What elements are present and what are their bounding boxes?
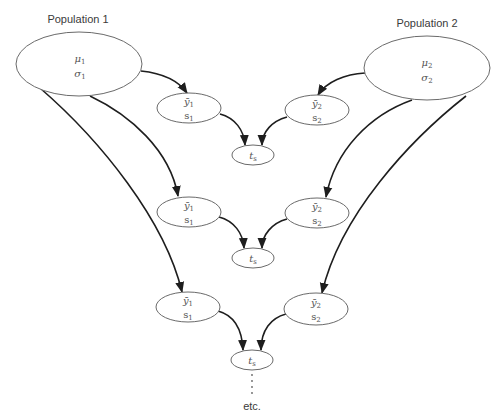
etc-label: etc. [243,400,261,412]
sampling-distribution-diagram: Population 1 Population 2 μ1 σ1 μ2 σ2 [0,0,501,419]
t-statistic-node-row3: ts [231,350,273,370]
population-1-label: Population 1 [47,13,108,25]
arrow-pop2-sample2-row1 [318,73,365,95]
arrow-pop1-sample1-row3 [40,88,182,292]
population-2-node: μ2 σ2 [364,36,490,100]
sample-2-node-row3: ȳ2 s2 [284,293,348,325]
continuation-dots [251,374,253,394]
t-statistic-node-row2: ts [232,248,274,268]
arrow-s2-ts-row2 [262,219,287,248]
population-1-node: μ1 σ1 [16,32,142,96]
t-statistic-node-row1: ts [232,145,274,165]
edges [40,71,466,350]
arrow-s1-ts-row3 [218,311,243,350]
sample-2-node-row1: ȳ2 s2 [285,95,349,125]
sample-1-node-row3: ȳ1 s1 [156,292,220,322]
sample-1-node-row1: ȳ1 s1 [157,93,221,123]
sample-1-node-row2: ȳ1 s1 [157,197,221,227]
arrow-s1-ts-row1 [220,114,245,145]
arrow-s2-ts-row1 [262,117,287,145]
arrow-s1-ts-row2 [219,217,244,248]
arrow-s2-ts-row3 [261,314,286,350]
arrow-pop1-sample1-row1 [141,71,187,93]
population-2-label: Population 2 [396,17,457,29]
sample-2-node-row2: ȳ2 s2 [285,198,349,228]
arrow-pop2-sample2-row3 [322,96,466,293]
